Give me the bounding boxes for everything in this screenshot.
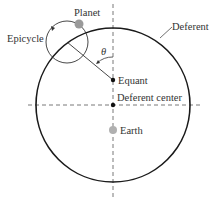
- deferent-center-label: Deferent center: [117, 92, 182, 103]
- planet-dot: [75, 20, 84, 29]
- theta-arc: [97, 57, 113, 63]
- equant-label: Equant: [118, 75, 148, 86]
- earth-label: Earth: [120, 125, 143, 136]
- ptolemaic-model-diagram: Planet Epicycle Deferent θ Equant Defere…: [0, 0, 217, 199]
- earth-dot: [109, 126, 117, 134]
- deferent-center-dot: [111, 103, 115, 107]
- epicycle-label: Epicycle: [7, 33, 44, 44]
- theta-label: θ: [101, 46, 106, 57]
- equant-dot: [111, 78, 115, 82]
- deferent-leader-line: [160, 27, 172, 38]
- planet-label: Planet: [74, 7, 100, 18]
- deferent-label: Deferent: [172, 21, 209, 32]
